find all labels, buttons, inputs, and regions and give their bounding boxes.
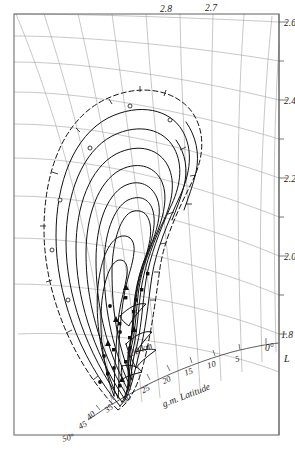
plot-frame — [14, 14, 279, 435]
data-point-markers — [50, 104, 172, 387]
top-tick-label-2-7: 2.7 — [205, 3, 218, 13]
lat-label-10: 10 — [206, 358, 218, 370]
L-tick-label-2-6: 2.6 — [284, 18, 295, 28]
contour-line-5 — [86, 166, 165, 394]
L-tick-label-2-2: 2.2 — [284, 174, 295, 184]
L-tick-label-2-0: 2.0 — [284, 252, 295, 262]
lat-label-40: 40 — [84, 408, 98, 422]
top-tick-label-2-8: 2.8 — [160, 4, 172, 14]
L-axis-label: L — [283, 353, 290, 364]
contour-plot-svg: 2.8 2.7 2.6 2.4 2.2 2.0 1.8 L 100 km 0° … — [0, 0, 295, 449]
altitude-100km-label: 100 km — [124, 340, 154, 360]
lat-label-15: 15 — [183, 365, 194, 377]
lat-label-0: 0° — [265, 343, 274, 353]
L-tick-label-2-4: 2.4 — [284, 96, 295, 106]
latitude-axis-label: g.m. Latitude — [161, 382, 212, 409]
lat-label-45: 45 — [76, 418, 88, 431]
lat-label-50: 50° — [61, 431, 76, 444]
contour-line-3 — [66, 129, 180, 402]
figure-container: 2.8 2.7 2.6 2.4 2.2 2.0 1.8 L 100 km 0° … — [0, 0, 295, 449]
lat-label-20: 20 — [160, 373, 173, 386]
L-tick-label-1-8: 1.8 — [281, 330, 293, 340]
